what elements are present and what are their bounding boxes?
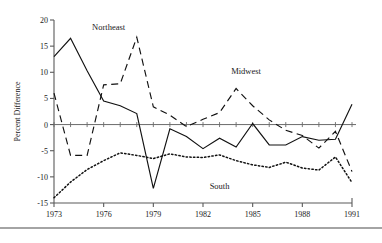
y-axis-title-group: Percent Difference xyxy=(13,81,22,141)
series-line-south xyxy=(54,153,352,198)
axes-layer xyxy=(50,20,352,207)
x-tick-label: 1976 xyxy=(96,210,112,219)
y-tick-label: 15 xyxy=(40,42,48,51)
series-annotation-layer: NortheastMidwestSouth xyxy=(92,22,261,191)
zero-baseline xyxy=(54,122,356,127)
y-tick-label: 0 xyxy=(44,121,48,130)
x-tick-label: 1973 xyxy=(46,210,62,219)
x-tick-label: 1991 xyxy=(344,210,360,219)
x-tick-label: 1988 xyxy=(294,210,310,219)
y-axis-title: Percent Difference xyxy=(13,81,22,141)
series-label-south: South xyxy=(210,181,231,191)
series-line-northeast xyxy=(54,38,352,188)
line-chart-svg: 20151050-5-10-15197319761979198219851988… xyxy=(0,0,382,243)
y-tick-label: 5 xyxy=(44,94,48,103)
x-tick-label: 1985 xyxy=(245,210,261,219)
x-tick-label: 1982 xyxy=(195,210,211,219)
y-tick-label: -15 xyxy=(37,199,48,208)
x-tick-label: 1979 xyxy=(145,210,161,219)
y-tick-label: -10 xyxy=(37,173,48,182)
tick-label-layer: 20151050-5-10-15197319761979198219851988… xyxy=(37,16,360,219)
series-label-midwest: Midwest xyxy=(231,66,261,76)
y-tick-label: 20 xyxy=(40,16,48,25)
chart-figure: 20151050-5-10-15197319761979198219851988… xyxy=(0,0,382,243)
y-tick-label: -5 xyxy=(41,147,48,156)
series-line-midwest xyxy=(54,37,352,171)
series-layer xyxy=(54,37,352,198)
y-tick-label: 10 xyxy=(40,68,48,77)
series-label-northeast: Northeast xyxy=(92,22,126,32)
